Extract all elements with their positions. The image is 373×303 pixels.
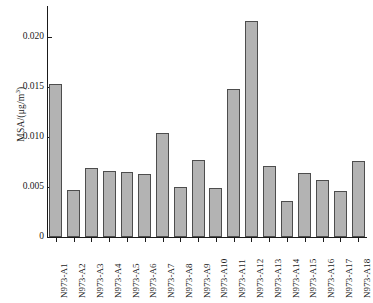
bar [121,172,134,237]
x-axis-label: N973-A15 [308,259,318,298]
bar [85,168,98,237]
bar [103,171,116,237]
bar [67,190,80,237]
x-axis-label: N973-A2 [77,263,87,298]
x-axis-label: N973-A18 [362,259,372,298]
x-axis-label: N973-A6 [148,263,158,298]
bar [156,133,169,237]
bar [352,161,365,237]
x-axis-label-group: N973-A1N973-A2N973-A3N973-A4N973-A5N973-… [47,240,367,303]
y-tick-label: 0 [39,231,44,241]
x-axis-label: N973-A11 [237,259,247,298]
x-axis-line [47,237,367,238]
x-axis-label: N973-A14 [291,259,301,298]
bar [298,173,311,237]
bar [316,180,329,237]
y-tick-mark [48,37,52,38]
y-axis-line [47,6,48,238]
bar [49,84,62,237]
y-tick: 0 [47,237,52,238]
x-axis-label: N973-A16 [326,259,336,298]
bar [192,160,205,237]
y-tick-label: 0.010 [23,131,44,141]
y-tick: 0.020 [47,37,52,38]
bar [245,21,258,237]
x-axis-label: N973-A9 [202,263,212,298]
y-tick-mark [48,237,52,238]
x-axis-label: N973-A10 [219,259,229,298]
x-axis-label: N973-A4 [113,263,123,298]
bar [263,166,276,237]
y-tick-label: 0.015 [23,81,44,91]
x-axis-label: N973-A3 [95,263,105,298]
x-axis-label: N973-A13 [273,259,283,298]
x-axis-label: N973-A12 [255,259,265,298]
x-axis-label: N973-A17 [344,259,354,298]
bar [174,187,187,237]
y-axis-title: MSA/(μg/m3) [14,54,26,174]
bar [227,89,240,237]
bar [334,191,347,237]
plot-area: 00.0050.0100.0150.020 [47,6,367,238]
x-axis-label: N973-A8 [184,263,194,298]
bar [209,188,222,237]
x-axis-label: N973-A5 [131,263,141,298]
bar-chart: MSA/(μg/m3) 00.0050.0100.0150.020 N973-A… [0,0,373,303]
x-axis-label: N973-A7 [166,263,176,298]
bar [281,201,294,237]
y-tick-label: 0.005 [23,181,44,191]
y-tick-label: 0.020 [23,31,44,41]
x-axis-label: N973-A1 [59,263,69,298]
bar [138,174,151,237]
